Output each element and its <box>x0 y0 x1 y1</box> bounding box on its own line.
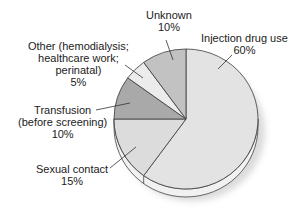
label-injection-name: Injection drug use <box>201 32 288 44</box>
label-other-line2: healthcare work; <box>28 52 129 64</box>
label-transfusion-pct: 10% <box>18 128 107 140</box>
label-transfusion-line2: (before screening) <box>18 116 107 128</box>
label-sexual-name: Sexual contact <box>36 163 108 175</box>
label-transfusion-line1: Transfusion <box>18 104 107 116</box>
label-injection: Injection drug use 60% <box>201 32 288 56</box>
label-unknown-name: Unknown <box>146 9 192 21</box>
label-transfusion: Transfusion (before screening) 10% <box>18 104 107 140</box>
label-unknown-pct: 10% <box>146 21 192 33</box>
label-unknown: Unknown 10% <box>146 9 192 33</box>
pie-slices <box>114 49 258 189</box>
label-other: Other (hemodialysis; healthcare work; pe… <box>28 40 129 88</box>
label-sexual-pct: 15% <box>36 175 108 187</box>
label-other-line1: Other (hemodialysis; <box>28 40 129 52</box>
label-other-line3: perinatal) <box>28 64 129 76</box>
label-injection-pct: 60% <box>201 44 288 56</box>
label-sexual: Sexual contact 15% <box>36 163 108 187</box>
label-other-pct: 5% <box>28 76 129 88</box>
